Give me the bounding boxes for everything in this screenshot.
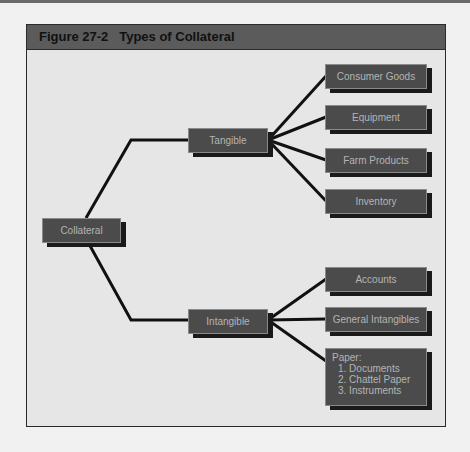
node-collateral-label: Collateral xyxy=(60,225,102,236)
node-collateral: Collateral xyxy=(42,218,121,243)
connector-intangible-accounts xyxy=(268,279,326,320)
node-accounts-label: Accounts xyxy=(355,274,396,285)
node-paper-label: Paper: xyxy=(332,352,426,363)
node-inventory-label: Inventory xyxy=(355,196,396,207)
node-tangible-label: Tangible xyxy=(209,135,246,146)
node-paper-item: 3. Instruments xyxy=(332,385,426,396)
node-farm-products: Farm Products xyxy=(325,148,427,173)
node-farm-products-label: Farm Products xyxy=(343,155,409,166)
node-intangible: Intangible xyxy=(188,309,268,334)
node-paper-item: 1. Documents xyxy=(332,363,426,374)
node-consumer-goods: Consumer Goods xyxy=(325,64,427,89)
connector-collateral-tangible xyxy=(86,140,188,218)
node-equipment: Equipment xyxy=(325,105,427,130)
connector-intangible-general xyxy=(268,319,326,320)
node-general-intangibles-label: General Intangibles xyxy=(333,314,420,325)
node-equipment-label: Equipment xyxy=(352,112,400,123)
connector-intangible-paper xyxy=(268,320,326,361)
node-tangible: Tangible xyxy=(188,128,268,153)
node-inventory: Inventory xyxy=(325,189,427,214)
connector-tangible-consumer-goods xyxy=(268,76,326,140)
node-general-intangibles: General Intangibles xyxy=(325,307,427,332)
connector-collateral-intangible xyxy=(89,244,188,320)
node-paper-item: 2. Chattel Paper xyxy=(332,374,426,385)
node-paper: Paper: 1. Documents 2. Chattel Paper 3. … xyxy=(325,348,427,406)
node-intangible-label: Intangible xyxy=(206,316,249,327)
node-accounts: Accounts xyxy=(325,267,427,292)
node-consumer-goods-label: Consumer Goods xyxy=(337,71,415,82)
